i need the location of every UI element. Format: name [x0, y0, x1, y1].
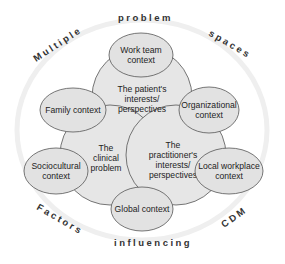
organizational-context: Organizational context — [179, 87, 239, 133]
svg-text:clinical: clinical — [93, 153, 119, 163]
svg-text:context: context — [127, 55, 155, 65]
svg-text:problem: problem — [90, 163, 121, 173]
work-team-context: Work team context — [109, 33, 173, 77]
family-context: Family context — [40, 88, 106, 132]
svg-text:Family context: Family context — [45, 105, 101, 115]
svg-text:context: context — [215, 171, 243, 181]
cdm-diagram: Multiple problem spaces Factors influenc… — [0, 0, 285, 264]
svg-text:perspectives: perspectives — [118, 104, 166, 114]
svg-text:perspectives: perspectives — [149, 170, 197, 180]
svg-text:Organizational: Organizational — [181, 100, 237, 110]
svg-text:Global context: Global context — [115, 204, 171, 214]
svg-text:context: context — [42, 171, 70, 181]
ring-text-problem: problem — [118, 12, 173, 23]
ring-text-multiple: Multiple — [31, 24, 84, 64]
ring-text-factors: Factors — [35, 201, 85, 236]
svg-text:Sociocultural: Sociocultural — [31, 161, 80, 171]
svg-text:The: The — [166, 140, 181, 150]
svg-text:practitioner's: practitioner's — [149, 150, 197, 160]
svg-text:context: context — [195, 110, 223, 120]
svg-text:Work team: Work team — [120, 45, 161, 55]
global-context: Global context — [111, 187, 173, 231]
local-workplace-context: Local workplace context — [195, 148, 263, 194]
ring-text-influencing: influencing — [114, 237, 192, 248]
patient-label: The patient's interests/ perspectives — [118, 84, 167, 114]
svg-text:The patient's: The patient's — [118, 84, 167, 94]
sociocultural-context: Sociocultural context — [24, 148, 88, 194]
svg-text:The: The — [99, 143, 114, 153]
svg-text:interests/: interests/ — [125, 94, 160, 104]
svg-text:Local workplace: Local workplace — [198, 161, 260, 171]
svg-text:interests/: interests/ — [156, 160, 191, 170]
